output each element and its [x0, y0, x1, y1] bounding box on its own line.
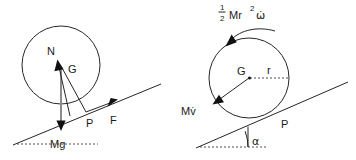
label-center-g-left: G [68, 63, 77, 75]
angular-omega-dot: ω̇ [256, 9, 265, 22]
label-incline-angle: α [252, 135, 259, 148]
label-contact-point-right: P [281, 118, 288, 130]
angular-term-expression: 1 2 Mr 2 ω̇ [219, 3, 266, 23]
label-contact-point-left: P [86, 117, 93, 129]
physics-diagram-svg: N G P F Mg [0, 0, 356, 160]
label-center-g-right: G [237, 65, 246, 77]
linear-acceleration-shaft [220, 78, 249, 99]
angular-fraction-numerator: 1 [220, 3, 225, 12]
linear-acceleration-arrowhead [213, 95, 225, 105]
diagram-canvas: N G P F Mg [0, 0, 356, 160]
friction-force-shaft [86, 103, 110, 112]
weight-force-arrowhead [56, 121, 65, 132]
normal-force-arrowhead [54, 60, 63, 72]
label-radius-r: r [267, 64, 271, 76]
right-panel-group: 1 2 Mr 2 ω̇ Mv̇ G r P α [181, 3, 348, 148]
label-friction-force: F [110, 114, 117, 126]
angular-exponent: 2 [250, 4, 255, 13]
left-incline-line [13, 84, 161, 145]
angular-fraction-denominator: 2 [220, 14, 225, 23]
right-incline-line [196, 82, 348, 148]
label-normal-force: N [47, 45, 55, 57]
label-linear-acceleration: Mv̇ [181, 105, 196, 117]
label-weight-mg: Mg [50, 138, 65, 150]
left-panel-group: N G P F Mg [13, 26, 161, 150]
angular-mass-radius-term: Mr [229, 9, 242, 21]
